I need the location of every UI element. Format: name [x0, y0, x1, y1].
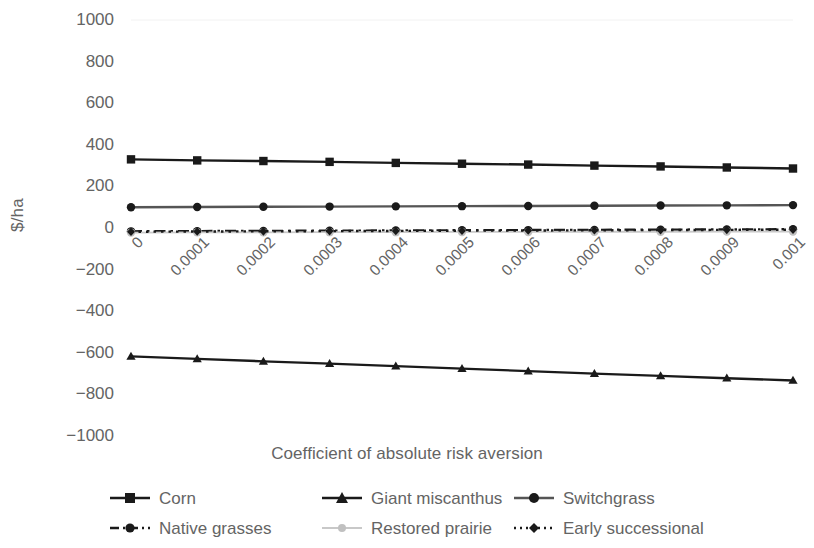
data-point-marker: [193, 203, 201, 211]
y-axis-tick-label: 800: [30, 53, 114, 70]
legend-label-native-grasses: Native grasses: [159, 520, 271, 537]
x-axis-title: Coefficient of absolute risk aversion: [0, 444, 814, 464]
data-point-marker: [723, 201, 731, 209]
data-point-marker: [590, 161, 598, 169]
data-point-marker: [392, 202, 400, 210]
legend-label-giant-miscanthus: Giant miscanthus: [371, 490, 502, 507]
legend-label-switchgrass: Switchgrass: [563, 490, 655, 507]
data-point-marker: [392, 159, 400, 167]
series-corn: [127, 155, 797, 173]
series-giant-miscanthus: [126, 352, 797, 384]
y-axis-tick-label: 0: [30, 219, 114, 236]
data-point-marker: [723, 163, 731, 171]
legend-item-early-successional: Early successional: [512, 514, 742, 542]
data-point-marker: [524, 202, 532, 210]
data-point-marker: [524, 160, 532, 168]
legend-item-giant-miscanthus: Giant miscanthus: [320, 484, 512, 512]
legend-swatch-corn: [108, 489, 152, 507]
data-point-marker: [127, 155, 135, 163]
data-point-marker: [656, 201, 664, 209]
data-point-marker: [193, 156, 201, 164]
legend-item-native-grasses: Native grasses: [108, 514, 320, 542]
legend-label-early-successional: Early successional: [563, 520, 704, 537]
plot-area: [126, 10, 798, 430]
line-chart: $/ha 10008006004002000−200−400−600−800−1…: [0, 0, 814, 548]
y-axis-tick-label: −400: [30, 302, 114, 319]
data-point-marker: [325, 158, 333, 166]
legend-row: Native grasses Restored prairie: [108, 514, 808, 542]
data-point-marker: [590, 202, 598, 210]
y-axis-tick-label: −800: [30, 385, 114, 402]
data-point-marker: [458, 160, 466, 168]
plot-svg: [126, 10, 798, 430]
y-axis-tick-labels: 10008006004002000−200−400−600−800−1000: [30, 0, 114, 460]
data-point-marker: [789, 201, 797, 209]
data-point-marker: [656, 162, 664, 170]
y-axis-tick-label: 1000: [30, 11, 114, 28]
y-axis-tick-label: 200: [30, 177, 114, 194]
y-axis-tick-label: −1000: [30, 427, 114, 444]
y-axis-tick-label: 400: [30, 136, 114, 153]
legend-item-switchgrass: Switchgrass: [512, 484, 712, 512]
legend-swatch-early-successional: [512, 519, 556, 537]
data-point-marker: [259, 157, 267, 165]
legend-swatch-switchgrass: [512, 489, 556, 507]
legend-label-restored-prairie: Restored prairie: [371, 520, 492, 537]
legend-item-corn: Corn: [108, 484, 320, 512]
data-point-marker: [127, 203, 135, 211]
y-axis-tick-label: −200: [30, 261, 114, 278]
series-switchgrass: [127, 201, 797, 211]
data-point-marker: [458, 202, 466, 210]
y-axis-title: $/ha: [8, 175, 28, 255]
legend-item-restored-prairie: Restored prairie: [320, 514, 512, 542]
legend-swatch-restored-prairie: [320, 519, 364, 537]
y-axis-tick-label: −600: [30, 344, 114, 361]
legend-swatch-native-grasses: [108, 519, 152, 537]
legend-row: Corn Giant miscanthus Sw: [108, 484, 808, 512]
data-point-marker: [325, 202, 333, 210]
data-point-marker: [259, 203, 267, 211]
legend-swatch-giant-miscanthus: [320, 489, 364, 507]
data-point-marker: [789, 164, 797, 172]
y-axis-tick-label: 600: [30, 94, 114, 111]
chart-legend: Corn Giant miscanthus Sw: [108, 484, 808, 544]
legend-label-corn: Corn: [159, 490, 196, 507]
